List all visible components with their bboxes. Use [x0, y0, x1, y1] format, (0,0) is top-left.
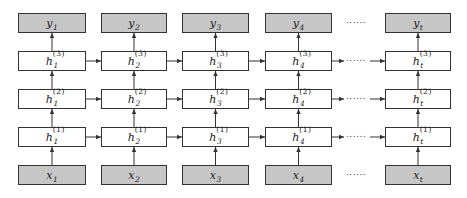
stacked-rnn-diagram: y1y2y3y4yth1(3)h2(3)h3(3)h4(3)ht(3)h1(2)…: [0, 0, 467, 198]
arrows-layer: [0, 0, 467, 198]
